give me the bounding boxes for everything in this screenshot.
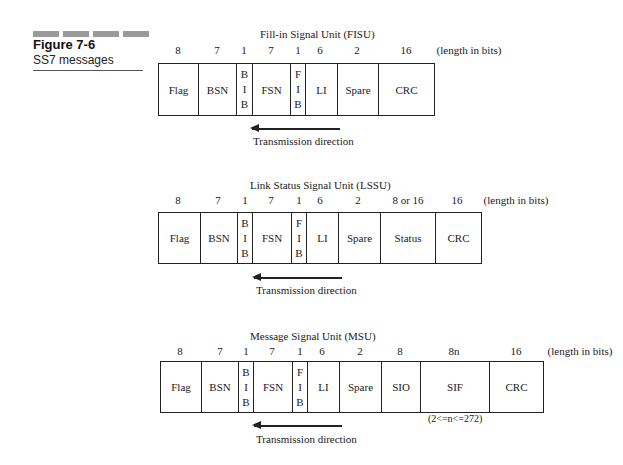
letter: B bbox=[241, 216, 248, 231]
bits-flag: 8 bbox=[175, 44, 181, 56]
letter: B bbox=[295, 246, 302, 261]
letter: B bbox=[241, 246, 248, 261]
bits-bib: 1 bbox=[243, 345, 249, 357]
letter: B bbox=[241, 67, 248, 82]
transmission-direction-label: Transmission direction bbox=[256, 433, 357, 445]
bits-bib: 1 bbox=[242, 194, 248, 206]
field-bsn: BSN bbox=[201, 213, 238, 263]
field-flag: Flag bbox=[159, 213, 201, 263]
field-li: LI bbox=[308, 362, 340, 412]
field-fsn: FSN bbox=[254, 362, 293, 412]
letter: F bbox=[296, 365, 303, 380]
bits-bsn: 7 bbox=[214, 44, 220, 56]
field-fib: FIB bbox=[291, 64, 306, 115]
field-bib: BIB bbox=[238, 213, 253, 263]
letter: I bbox=[241, 231, 248, 246]
bits-fsn: 7 bbox=[268, 194, 274, 206]
field-crc: CRC bbox=[436, 213, 481, 263]
letter: F bbox=[294, 67, 301, 82]
letter: I bbox=[241, 82, 248, 97]
bits-fib: 1 bbox=[296, 194, 302, 206]
bits-crc: 16 bbox=[452, 194, 463, 206]
bits-status: 8 or 16 bbox=[392, 194, 423, 206]
letter: B bbox=[241, 97, 248, 112]
field-flag: Flag bbox=[161, 362, 202, 412]
field-crc: CRC bbox=[379, 64, 434, 115]
bits-fib: 1 bbox=[297, 345, 303, 357]
fisu-frame: Flag BSN BIB FSN FIB LI Spare CRC bbox=[158, 63, 435, 116]
dash bbox=[123, 31, 149, 37]
left-arrow-icon bbox=[254, 425, 342, 427]
unit-title: Link Status Signal Unit (LSSU) bbox=[250, 179, 391, 191]
bits-fsn: 7 bbox=[268, 44, 274, 56]
transmission-direction-label: Transmission direction bbox=[253, 135, 354, 147]
field-spare: Spare bbox=[338, 64, 379, 115]
bits-crc: 16 bbox=[511, 345, 522, 357]
field-status: Status bbox=[381, 213, 436, 263]
bits-fsn: 7 bbox=[269, 345, 275, 357]
bits-spare: 2 bbox=[357, 345, 363, 357]
field-bsn: BSN bbox=[199, 64, 237, 115]
letter: I bbox=[242, 380, 249, 395]
letter: I bbox=[296, 380, 303, 395]
field-sio: SIO bbox=[382, 362, 421, 412]
units-label: (length in bits) bbox=[484, 194, 549, 206]
field-flag: Flag bbox=[159, 64, 199, 115]
field-spare: Spare bbox=[340, 362, 382, 412]
msu-frame: Flag BSN BIB FSN FIB LI Spare SIO SIF CR… bbox=[160, 361, 544, 413]
field-fsn: FSN bbox=[253, 64, 291, 115]
field-li: LI bbox=[307, 213, 339, 263]
field-bsn: BSN bbox=[202, 362, 239, 412]
bits-sio: 8 bbox=[397, 345, 403, 357]
unit-title: Fill-in Signal Unit (FISU) bbox=[260, 28, 375, 40]
field-bib: BIB bbox=[237, 64, 253, 115]
letter: F bbox=[295, 216, 302, 231]
field-fib: FIB bbox=[293, 362, 308, 412]
field-sif: SIF bbox=[421, 362, 490, 412]
bits-fib: 1 bbox=[295, 44, 301, 56]
left-arrow-icon bbox=[254, 277, 342, 279]
bits-li: 6 bbox=[317, 44, 323, 56]
field-fib: FIB bbox=[292, 213, 307, 263]
figure-number: Figure 7-6 bbox=[33, 37, 95, 52]
caption-divider bbox=[33, 70, 143, 71]
left-arrow-icon bbox=[252, 128, 340, 130]
bits-spare: 2 bbox=[355, 194, 361, 206]
bits-li: 6 bbox=[317, 194, 323, 206]
bits-spare: 2 bbox=[354, 44, 360, 56]
bits-bsn: 7 bbox=[215, 194, 221, 206]
bits-sif: 8n bbox=[449, 345, 460, 357]
field-spare: Spare bbox=[339, 213, 381, 263]
figure-caption: SS7 messages bbox=[33, 53, 114, 67]
letter: I bbox=[295, 231, 302, 246]
transmission-direction-label: Transmission direction bbox=[256, 284, 357, 296]
letter: B bbox=[294, 97, 301, 112]
sif-range-note: (2<=n<=272) bbox=[428, 413, 482, 424]
letter: I bbox=[294, 82, 301, 97]
units-label: (length in bits) bbox=[548, 345, 613, 357]
units-label: (length in bits) bbox=[437, 44, 502, 56]
field-crc: CRC bbox=[490, 362, 543, 412]
letter: B bbox=[242, 365, 249, 380]
letter: B bbox=[296, 395, 303, 410]
bits-bsn: 7 bbox=[217, 345, 223, 357]
letter: B bbox=[242, 395, 249, 410]
field-li: LI bbox=[306, 64, 338, 115]
bits-flag: 8 bbox=[175, 194, 181, 206]
bits-flag: 8 bbox=[177, 345, 183, 357]
bits-crc: 16 bbox=[401, 44, 412, 56]
dash bbox=[93, 31, 119, 37]
bits-bib: 1 bbox=[241, 44, 247, 56]
bits-li: 6 bbox=[319, 345, 325, 357]
field-fsn: FSN bbox=[253, 213, 292, 263]
field-bib: BIB bbox=[239, 362, 254, 412]
lssu-frame: Flag BSN BIB FSN FIB LI Spare Status CRC bbox=[158, 212, 482, 264]
unit-title: Message Signal Unit (MSU) bbox=[250, 330, 376, 342]
